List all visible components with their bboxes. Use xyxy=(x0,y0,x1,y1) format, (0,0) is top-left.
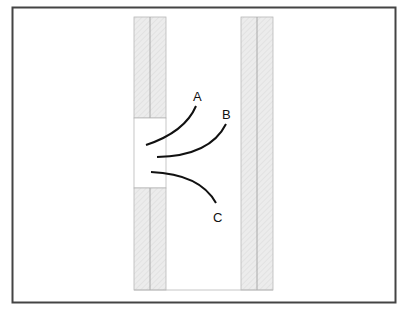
right-wall xyxy=(241,17,273,290)
wall-opening xyxy=(134,118,166,188)
outer-frame xyxy=(13,8,396,303)
label-b: B xyxy=(222,107,231,122)
label-a: A xyxy=(193,89,202,104)
left-wall xyxy=(134,17,166,290)
label-c: C xyxy=(213,210,222,225)
wall-gap-diagram: A B C xyxy=(0,0,405,311)
